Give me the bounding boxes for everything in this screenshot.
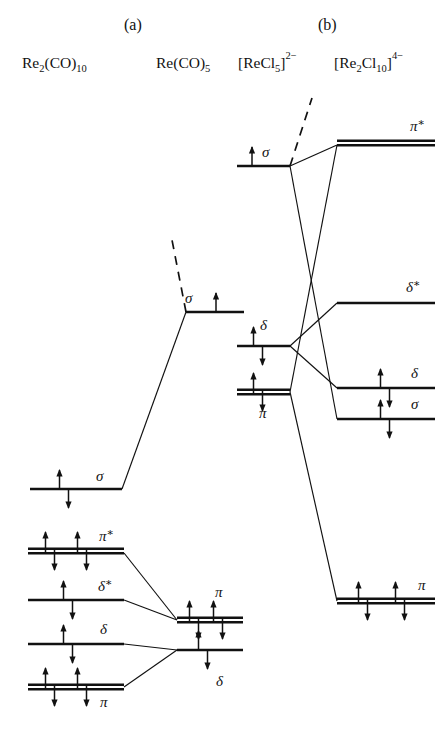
orbital-label-b-delta-fragment: δ — [260, 317, 268, 333]
orbital-label-a-pi-fragment: π — [215, 584, 223, 600]
orbital-label-b-pi-bonding: π — [418, 577, 426, 593]
orbital-label-b-sigma-fragment: σ — [262, 144, 270, 160]
orbital-label-a-delta-fragment: δ — [216, 673, 224, 689]
panel-letter-b: (b) — [318, 16, 337, 34]
orbital-label-a-delta-bonding: δ — [100, 621, 108, 637]
orbital-label-b-delta-bonding: δ — [411, 365, 419, 381]
orbital-label-a-sigma-fragment: σ — [185, 290, 193, 306]
orbital-label-b-pi-fragment: π — [259, 405, 267, 421]
orbital-label-b-sigma-bonding: σ — [411, 396, 419, 412]
mo-correlation-diagram: (a)(b) Re2(CO)10Re(CO)5[ReCl5]2−[Re2Cl10… — [0, 0, 445, 734]
orbital-label-a-sigma-bonding: σ — [96, 468, 104, 484]
panel-letter-a: (a) — [124, 16, 142, 34]
orbital-label-a-pi-bonding: π — [100, 694, 108, 710]
